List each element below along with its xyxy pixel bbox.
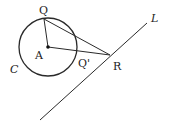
- label-q-prime: Q': [78, 57, 90, 70]
- label-q: Q: [39, 4, 48, 17]
- label-l: L: [150, 12, 158, 25]
- segment-aq: [44, 19, 48, 47]
- geometry-diagram: Q A Q' R C L: [0, 0, 169, 134]
- label-c: C: [10, 63, 19, 76]
- line-l: [40, 23, 147, 120]
- label-a: A: [34, 49, 44, 62]
- segment-ar: [48, 47, 110, 55]
- label-r: R: [113, 60, 122, 73]
- center-point-a: [46, 45, 50, 49]
